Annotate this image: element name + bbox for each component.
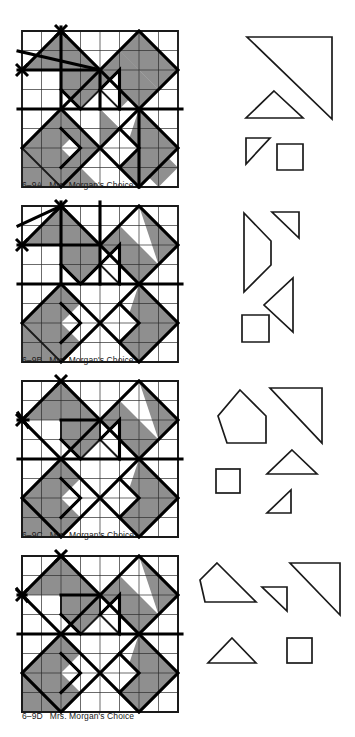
template-small-right-triangle: [246, 138, 270, 164]
template-square-shape: [287, 638, 312, 663]
diagram-6-9b: [0, 175, 355, 365]
template-square: [277, 144, 303, 170]
templates-6-9a: [246, 37, 332, 170]
template-medium-isosceles-triangle: [246, 91, 303, 118]
diagram-6-9c: [0, 350, 355, 540]
quilt-block-6-9d: [16, 550, 182, 712]
template-small-right-triangle: [272, 212, 299, 238]
figure-6-9a: 6–9AMrs. Morgan's Choice: [0, 0, 355, 190]
template-small-right-triangle: [267, 490, 291, 513]
figure-6-9b: 6–9BMrs. Morgan's Choice: [0, 175, 355, 365]
caption-id: 6–9D: [22, 711, 43, 721]
figure-page: 6–9AMrs. Morgan's Choice: [0, 0, 355, 737]
templates-6-9c: [216, 388, 322, 540]
template-trapezoid: [200, 563, 256, 602]
template-pentagon: [218, 390, 266, 443]
caption-6-9d: 6–9DMrs. Morgan's Choice: [22, 711, 134, 721]
template-square-shape: [216, 469, 240, 493]
figure-6-9c: 6–9CMrs. Morgan's Choice: [0, 350, 355, 540]
figure-6-9d: 6–9DMrs. Morgan's Choice: [0, 525, 355, 725]
templates-6-9b: [242, 212, 299, 342]
quilt-block-6-9c: [16, 375, 182, 537]
template-large-right-triangle: [270, 388, 322, 443]
template-small-right-triangle-d: [262, 587, 287, 611]
caption-title: Mrs. Morgan's Choice: [50, 711, 134, 721]
templates-6-9d: [200, 563, 340, 725]
diagram-6-9a: [0, 0, 355, 190]
quilt-block-6-9b: [16, 200, 182, 362]
diagram-6-9d: [0, 525, 355, 725]
template-isosceles-triangle: [208, 638, 256, 663]
template-trapezoid: [244, 213, 271, 292]
template-square: [242, 315, 269, 342]
quilt-block-6-9a: [16, 25, 182, 187]
template-isosceles-triangle: [267, 450, 317, 474]
template-large-right-triangle: [290, 563, 340, 615]
